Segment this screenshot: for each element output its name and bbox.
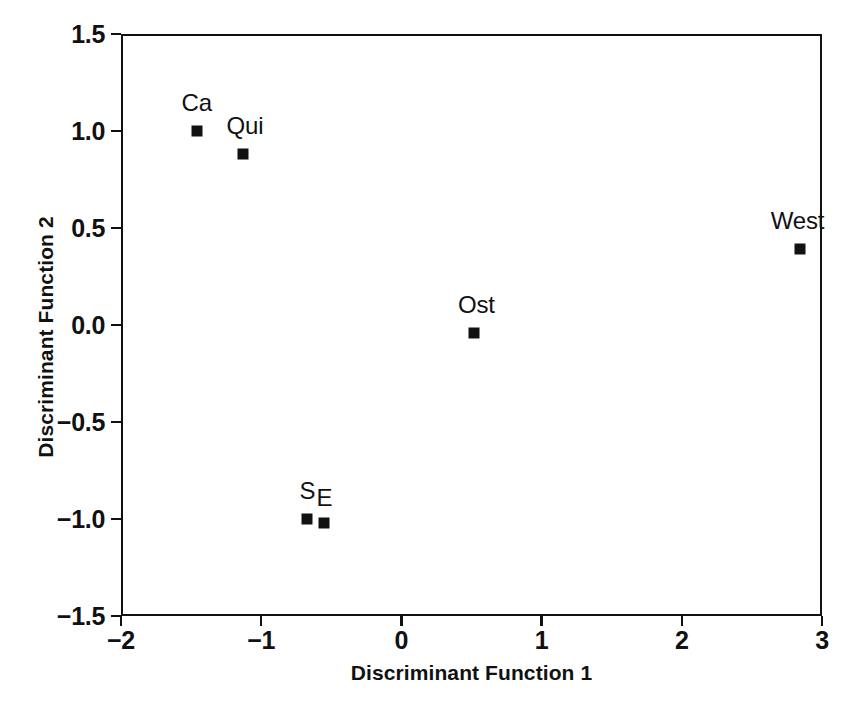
data-point-label: Ost (458, 291, 495, 319)
y-tick-label: 1.5 (71, 20, 105, 49)
x-tick-mark (400, 616, 403, 626)
y-tick-label: 0.5 (71, 214, 105, 243)
x-tick-mark (260, 616, 263, 626)
y-tick-label: 1.0 (71, 117, 105, 146)
data-point-marker (237, 149, 248, 160)
data-point-label: West (771, 207, 824, 235)
x-axis-title: Discriminant Function 1 (121, 661, 822, 685)
y-tick-label: 0.0 (71, 311, 105, 340)
y-tick-mark (111, 33, 121, 36)
data-point-marker (794, 244, 805, 255)
x-tick-label: 1 (535, 626, 549, 655)
x-tick-label: 2 (675, 626, 689, 655)
y-tick-mark (111, 130, 121, 133)
x-tick-label: 3 (815, 626, 829, 655)
x-tick-label: −1 (247, 626, 275, 655)
data-point-label: S (300, 477, 316, 505)
y-tick-mark (111, 615, 121, 618)
data-point-marker (319, 517, 330, 528)
x-tick-mark (120, 616, 123, 626)
y-tick-label: −0.5 (57, 408, 105, 437)
x-tick-mark (821, 616, 824, 626)
data-point-marker (469, 327, 480, 338)
y-axis-title: Discriminant Function 2 (34, 46, 58, 628)
y-tick-mark (111, 518, 121, 521)
x-tick-mark (540, 616, 543, 626)
y-tick-mark (111, 324, 121, 327)
y-tick-label: −1.5 (57, 602, 105, 631)
x-tick-label: −2 (107, 626, 135, 655)
data-point-marker (302, 514, 313, 525)
data-point-marker (191, 126, 202, 137)
y-tick-mark (111, 421, 121, 424)
y-tick-mark (111, 227, 121, 230)
scatter-plot-figure: −2−101231.51.00.50.0−0.5−1.0−1.5 CaQuiWe… (0, 0, 858, 702)
x-tick-mark (681, 616, 684, 626)
data-point-label: Qui (227, 112, 264, 140)
y-tick-label: −1.0 (57, 505, 105, 534)
data-point-label: Ca (182, 89, 212, 117)
data-point-label: E (316, 484, 332, 512)
x-tick-label: 0 (395, 626, 409, 655)
